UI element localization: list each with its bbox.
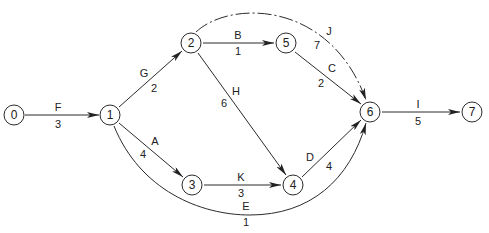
edge-J <box>196 13 366 100</box>
svg-text:6: 6 <box>367 105 374 119</box>
label-F-duration: 3 <box>55 118 61 130</box>
label-A-activity: A <box>151 135 159 147</box>
node-0: 0 <box>4 105 24 125</box>
edge-A <box>119 123 183 177</box>
label-G-duration: 2 <box>151 82 157 94</box>
edge-H <box>198 53 286 175</box>
label-H-activity: H <box>232 85 240 97</box>
edge-labels: F 3 G 2 A 4 E 1 B 1 H 6 J 7 K 3 C 2 D 4 … <box>55 25 421 228</box>
node-1: 1 <box>100 105 120 125</box>
label-C-duration: 2 <box>318 77 324 89</box>
node-6: 6 <box>360 102 380 122</box>
svg-text:2: 2 <box>188 36 195 50</box>
edge-G <box>119 51 182 107</box>
label-F-activity: F <box>55 101 62 113</box>
node-4: 4 <box>283 175 303 195</box>
svg-text:1: 1 <box>107 108 114 122</box>
svg-text:0: 0 <box>11 108 18 122</box>
svg-text:4: 4 <box>290 178 297 192</box>
svg-text:5: 5 <box>283 36 290 50</box>
label-D-duration: 4 <box>326 160 332 172</box>
edges <box>25 13 460 215</box>
label-D-activity: D <box>306 151 314 163</box>
label-I-duration: 5 <box>415 115 421 127</box>
label-K-activity: K <box>237 171 245 183</box>
label-A-duration: 4 <box>140 148 146 160</box>
node-7: 7 <box>462 102 482 122</box>
label-J-activity: J <box>326 25 332 37</box>
label-H-duration: 6 <box>221 97 227 109</box>
svg-text:7: 7 <box>469 105 476 119</box>
node-5: 5 <box>276 33 296 53</box>
label-B-activity: B <box>234 29 241 41</box>
label-B-duration: 1 <box>235 45 241 57</box>
svg-text:3: 3 <box>189 178 196 192</box>
label-G-activity: G <box>140 67 149 79</box>
label-J-duration: 7 <box>314 39 320 51</box>
label-E-duration: 1 <box>243 216 249 228</box>
node-3: 3 <box>182 175 202 195</box>
network-diagram: F 3 G 2 A 4 E 1 B 1 H 6 J 7 K 3 C 2 D 4 … <box>0 0 489 233</box>
label-K-duration: 3 <box>238 187 244 199</box>
label-C-activity: C <box>328 62 336 74</box>
node-2: 2 <box>181 33 201 53</box>
label-E-activity: E <box>242 200 249 212</box>
edge-C <box>295 52 361 104</box>
label-I-activity: I <box>416 98 419 110</box>
